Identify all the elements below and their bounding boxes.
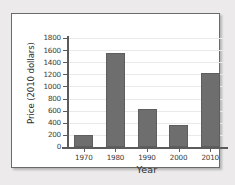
x-axis-tick <box>84 148 85 152</box>
y-axis-title: Price (2010 dollars) <box>26 29 36 137</box>
y-axis-tick-label: 600 <box>48 107 61 114</box>
figure-frame: 020040060080010001200140016001800 197019… <box>11 13 220 168</box>
chart-page: 020040060080010001200140016001800 197019… <box>0 0 235 185</box>
x-axis-title: Year <box>68 164 226 175</box>
gridline <box>68 62 226 63</box>
x-axis-tick <box>210 148 211 152</box>
y-axis-tick-label: 1000 <box>44 83 62 90</box>
bar <box>169 125 188 147</box>
gridline <box>68 50 226 51</box>
x-axis-tick <box>179 148 180 152</box>
y-axis-tick-label: 800 <box>48 95 61 102</box>
x-axis-tick-label: 2010 <box>194 154 226 161</box>
x-axis-tick-label: 1970 <box>68 154 100 161</box>
y-axis-tick-label: 200 <box>48 131 61 138</box>
y-axis-line <box>67 36 69 149</box>
bar <box>74 135 93 147</box>
x-axis-tick <box>115 148 116 152</box>
bar <box>138 109 157 147</box>
y-axis-tick-label: 1800 <box>44 34 62 41</box>
bar <box>201 73 220 147</box>
bar <box>106 53 125 147</box>
x-axis-tick-label: 1980 <box>100 154 132 161</box>
x-axis-tick <box>147 148 148 152</box>
y-axis-tick-label: 1600 <box>44 47 62 54</box>
x-axis-tick-label: 2000 <box>163 154 195 161</box>
y-axis-tick-label: 1200 <box>44 71 62 78</box>
y-axis-tick-label: 0 <box>57 143 61 150</box>
x-axis-line <box>62 147 228 149</box>
gridline <box>68 38 226 39</box>
x-axis-tick-label: 1990 <box>131 154 163 161</box>
y-axis-tick-labels: 020040060080010001200140016001800 <box>12 14 61 185</box>
y-axis-tick-label: 400 <box>48 119 61 126</box>
y-axis-tick-label: 1400 <box>44 59 62 66</box>
